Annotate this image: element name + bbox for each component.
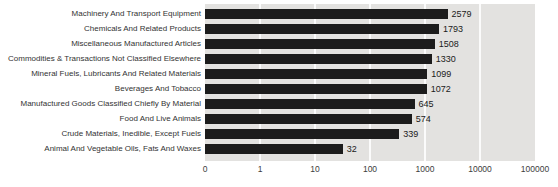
x-tick-label: 100 xyxy=(363,164,377,175)
bar-row: Machinery And Transport Equipment2579 xyxy=(0,6,558,21)
bar xyxy=(205,84,427,94)
x-axis: 0110100100010000100000 xyxy=(0,164,558,176)
value-label: 1330 xyxy=(436,54,456,64)
value-label: 1072 xyxy=(431,84,451,94)
category-label: Animal And Vegetable Oils, Fats And Waxe… xyxy=(0,144,205,154)
x-tick-label: 0 xyxy=(203,164,208,175)
category-label: Miscellaneous Manufactured Articles xyxy=(0,39,205,49)
bar xyxy=(205,24,439,34)
x-tick-label: 1000 xyxy=(416,164,435,175)
x-tick-label: 100000 xyxy=(521,164,549,175)
bar xyxy=(205,39,435,49)
bar xyxy=(205,144,343,154)
bar-row: Animal And Vegetable Oils, Fats And Waxe… xyxy=(0,142,558,157)
bar-row: Beverages And Tobacco1072 xyxy=(0,81,558,96)
category-label: Crude Materials, Inedible, Except Fuels xyxy=(0,129,205,139)
value-label: 1099 xyxy=(431,69,451,79)
category-label: Mineral Fuels, Lubricants And Related Ma… xyxy=(0,69,205,79)
bar-row: Mineral Fuels, Lubricants And Related Ma… xyxy=(0,66,558,81)
x-tick-label: 10000 xyxy=(468,164,492,175)
category-label: Food And Live Animals xyxy=(0,114,205,124)
value-label: 1793 xyxy=(443,24,463,34)
bar-row: Manufactured Goods Classified Chiefly By… xyxy=(0,97,558,112)
bar-chart: Machinery And Transport Equipment2579Che… xyxy=(0,0,558,187)
value-label: 2579 xyxy=(452,9,472,19)
x-tick-label: 10 xyxy=(310,164,319,175)
category-label: Machinery And Transport Equipment xyxy=(0,9,205,19)
category-label: Beverages And Tobacco xyxy=(0,84,205,94)
bar xyxy=(205,9,448,19)
bar xyxy=(205,69,427,79)
category-label: Commodities & Transactions Not Classifie… xyxy=(0,54,205,64)
value-label: 574 xyxy=(416,114,431,124)
bar-row: Miscellaneous Manufactured Articles1508 xyxy=(0,36,558,51)
bar-rows: Machinery And Transport Equipment2579Che… xyxy=(0,6,558,157)
bar xyxy=(205,99,415,109)
bar-row: Food And Live Animals574 xyxy=(0,112,558,127)
value-label: 32 xyxy=(347,144,357,154)
bar xyxy=(205,129,399,139)
bar xyxy=(205,114,412,124)
bar-row: Chemicals And Related Products1793 xyxy=(0,21,558,36)
category-label: Manufactured Goods Classified Chiefly By… xyxy=(0,99,205,109)
bar-row: Commodities & Transactions Not Classifie… xyxy=(0,51,558,66)
x-tick-label: 1 xyxy=(258,164,263,175)
value-label: 1508 xyxy=(439,39,459,49)
value-label: 645 xyxy=(419,99,434,109)
category-label: Chemicals And Related Products xyxy=(0,24,205,34)
bar xyxy=(205,54,432,64)
value-label: 339 xyxy=(403,129,418,139)
bar-row: Crude Materials, Inedible, Except Fuels3… xyxy=(0,127,558,142)
